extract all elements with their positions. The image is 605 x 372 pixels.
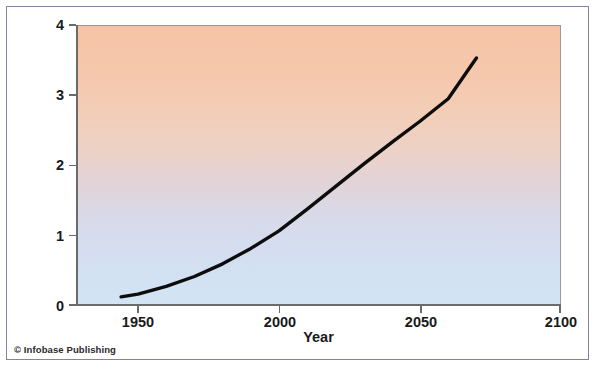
x-axis-spine [76, 304, 561, 306]
y-axis-spine [76, 25, 78, 306]
x-tick-mark-2000 [279, 306, 281, 313]
y-tick-label-1: 1 [46, 228, 64, 244]
y-tick-mark-0 [69, 304, 76, 306]
y-tick-label-3: 3 [46, 87, 64, 103]
y-tick-mark-4 [69, 24, 76, 26]
y-tick-label-0: 0 [46, 298, 64, 314]
plot-area-background [76, 25, 561, 306]
y-axis-title: Temperature change (°C) [13, 0, 35, 47]
y-tick-mark-2 [69, 165, 76, 167]
x-tick-label-2050: 2050 [396, 314, 446, 330]
y-tick-label-4: 4 [46, 17, 64, 33]
x-tick-label-1950: 1950 [113, 314, 163, 330]
x-tick-label-2100: 2100 [536, 314, 586, 330]
x-axis-title: Year [76, 329, 561, 345]
y-tick-mark-3 [69, 94, 76, 96]
y-tick-label-2: 2 [46, 157, 64, 173]
x-tick-mark-1950 [137, 306, 139, 313]
x-tick-label-2000: 2000 [255, 314, 305, 330]
chart-figure: Temperature change (°C) 4 3 2 1 0 1950 2… [0, 0, 605, 372]
plot-area-wrapper [76, 25, 561, 306]
copyright-credit: © Infobase Publishing [14, 344, 116, 355]
y-tick-mark-1 [69, 235, 76, 237]
x-tick-mark-2050 [420, 306, 422, 313]
x-tick-mark-2100 [559, 306, 561, 313]
